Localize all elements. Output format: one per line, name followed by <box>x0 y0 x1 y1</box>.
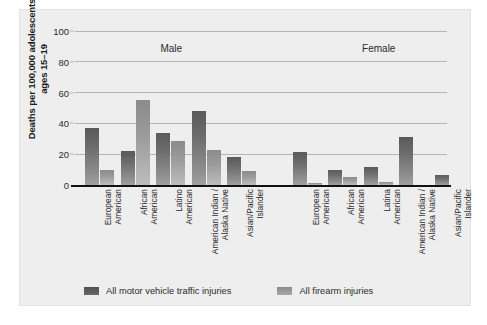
bar <box>293 152 307 185</box>
legend-label-firearm: All firearm injuries <box>299 286 373 296</box>
x-axis-tick-label: EuropeanAmerican <box>312 189 331 269</box>
bar <box>192 111 206 185</box>
x-axis-tick-label-line: Latina <box>383 189 393 269</box>
bar <box>207 150 221 185</box>
x-axis-tick-label-line: American <box>114 189 124 269</box>
y-axis-tick-mark <box>70 154 74 155</box>
y-axis-title-line1: Deaths per 100,000 adolescents <box>26 0 38 139</box>
y-axis-tick-mark <box>70 61 74 62</box>
x-axis-tick-label-line: Alaska Native <box>428 189 438 269</box>
bar <box>242 171 256 185</box>
chart-legend: All motor vehicle traffic injuries All f… <box>84 286 373 296</box>
x-axis-tick-label-line: Islander <box>463 189 473 269</box>
gridline <box>75 31 447 32</box>
x-axis-tick-label-line: Asian/Pacific <box>454 189 464 269</box>
bar <box>227 157 241 185</box>
bar <box>328 170 342 185</box>
x-axis-tick-label-line: African <box>140 189 150 269</box>
legend-item-motor-vehicle: All motor vehicle traffic injuries <box>84 286 231 296</box>
bar <box>379 182 393 185</box>
bar <box>171 141 185 185</box>
bar <box>343 177 357 185</box>
y-axis-tick-mark <box>70 31 74 32</box>
bar <box>121 151 135 185</box>
x-axis-tick-label: AfricanAmerican <box>347 189 366 269</box>
panel-label-male: Male <box>160 43 182 54</box>
legend-swatch-firearm-icon <box>277 287 292 295</box>
y-axis-tick-label: 20 <box>58 149 69 160</box>
y-axis-tick-label: 80 <box>58 56 69 67</box>
x-axis-tick-label-line: American <box>357 189 367 269</box>
x-axis-tick-label: Asian/PacificIslander <box>454 189 473 269</box>
gridline <box>75 61 447 62</box>
x-axis-tick-label-line: European <box>312 189 322 269</box>
y-axis-title: Deaths per 100,000 adolescents ages 15–1… <box>21 0 55 154</box>
plot-area: 020406080100 <box>75 31 447 185</box>
x-axis-tick-label-line: Islander <box>256 189 266 269</box>
bar <box>308 183 322 185</box>
x-axis-tick-label-line: American Indian / <box>211 189 221 269</box>
bar <box>136 100 150 185</box>
x-axis-tick-label: American Indian /Alaska Native <box>418 189 437 269</box>
y-axis-tick-label: 100 <box>53 26 69 37</box>
bar <box>364 167 378 185</box>
x-axis-tick-label: AfricanAmerican <box>140 189 159 269</box>
x-axis-tick-label-line: American <box>149 189 159 269</box>
x-axis-tick-label: American Indian /Alaska Native <box>211 189 230 269</box>
bar <box>156 133 170 185</box>
x-axis-tick-label: LatinaAmerican <box>383 189 402 269</box>
y-axis-tick-label: 0 <box>64 180 69 191</box>
y-axis-tick-mark <box>70 123 74 124</box>
bar <box>100 170 114 185</box>
chart-figure: Deaths per 100,000 adolescents ages 15–1… <box>0 0 487 325</box>
y-axis-tick-label: 60 <box>58 87 69 98</box>
x-axis-tick-label-line: American <box>321 189 331 269</box>
legend-swatch-motor-vehicle-icon <box>84 287 99 295</box>
x-axis-tick-label: LatinoAmerican <box>175 189 194 269</box>
bar <box>85 128 99 185</box>
x-axis-tick-label: EuropeanAmerican <box>104 189 123 269</box>
plot-inner: 020406080100 <box>75 31 447 185</box>
x-axis-tick-label-line: Alaska Native <box>220 189 230 269</box>
gridline <box>75 123 447 124</box>
legend-label-motor-vehicle: All motor vehicle traffic injuries <box>106 286 231 296</box>
y-axis-tick-label: 40 <box>58 118 69 129</box>
bar <box>399 137 413 186</box>
y-axis-title-line2: ages 15–19 <box>38 44 50 94</box>
bar <box>435 175 449 185</box>
y-axis-tick-mark <box>70 92 74 93</box>
x-axis-tick-label: Asian/PacificIslander <box>246 189 265 269</box>
gridline <box>75 92 447 93</box>
legend-item-firearm: All firearm injuries <box>277 286 373 296</box>
x-axis-tick-label-line: American <box>185 189 195 269</box>
x-axis-tick-label-line: American <box>392 189 402 269</box>
panel-label-female: Female <box>362 43 395 54</box>
